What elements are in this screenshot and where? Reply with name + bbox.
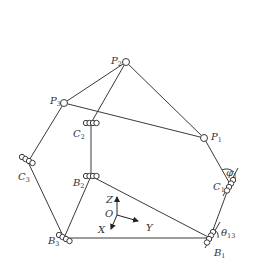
label-theta13: θ13 <box>221 227 235 240</box>
link-p3-c3 <box>28 103 64 162</box>
cylindrical-joint-c3-icon <box>19 154 35 165</box>
y-axis-arrow-icon <box>117 215 138 221</box>
spherical-joint-p2-icon <box>123 59 130 66</box>
y-axis-label: Y <box>146 222 154 233</box>
label-c1: C1 <box>213 181 225 194</box>
origin-label: O <box>105 208 113 219</box>
z-axis-label: Z <box>105 194 114 205</box>
label-c3: C3 <box>18 171 30 184</box>
label-b2: B2 <box>72 177 85 190</box>
spherical-joint-p3-icon <box>61 100 68 107</box>
cylindrical-joint-b2-icon <box>83 173 99 178</box>
label-p2: P2 <box>110 55 122 68</box>
cylindrical-joint-c2-icon <box>83 120 99 125</box>
label-c2: C2 <box>73 128 85 141</box>
cylindrical-joint-b1-icon <box>204 229 215 245</box>
link-c3-b3 <box>28 162 64 238</box>
label-p1: P1 <box>210 131 222 144</box>
coordinate-frame: Z O Y X <box>97 194 154 235</box>
mechanism-diagram: Z O Y X P2 P3 P1 C2 C3 B2 C1 B3 B1 φ1 θ1… <box>0 0 253 267</box>
links <box>28 62 238 248</box>
node-labels: P2 P3 P1 C2 C3 B2 C1 B3 B1 φ1 θ13 <box>18 55 237 260</box>
spherical-joint-p1-icon <box>201 135 208 142</box>
label-b1: B1 <box>213 247 226 260</box>
link-p2-p3 <box>64 62 126 103</box>
joints <box>19 59 235 246</box>
link-p2-p1 <box>126 62 204 138</box>
x-axis-label: X <box>97 224 106 235</box>
label-p3: P3 <box>49 95 61 108</box>
